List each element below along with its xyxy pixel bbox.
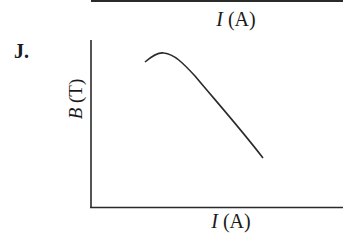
- x-axis-label: I (A): [195, 210, 267, 233]
- chart-plot: [0, 0, 343, 236]
- xlabel-variable: I: [211, 210, 218, 232]
- ylabel-unit: (T): [65, 79, 86, 103]
- ylabel-variable: B: [65, 108, 86, 120]
- xlabel-unit: (A): [223, 210, 251, 232]
- data-curve: [145, 53, 263, 158]
- y-axis-label: B (T): [65, 75, 87, 123]
